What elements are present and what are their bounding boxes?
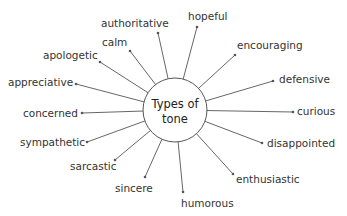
tone-label-calm: calm [102,36,127,48]
tone-label-encouraging: encouraging [237,39,303,51]
spoke-line [206,81,273,101]
spoke-end-dot [292,111,295,114]
spoke-line [205,121,262,143]
spoke-end-dot [157,32,160,35]
spoke-end-dot [129,50,132,53]
tone-label-sincere: sincere [115,182,153,194]
spoke-line [82,111,143,113]
spoke-end-dot [196,26,199,29]
spoke-end-dot [86,141,89,144]
tone-label-defensive: defensive [279,73,330,85]
tone-label-humorous: humorous [181,197,234,209]
spoke-end-dot [144,176,147,179]
spoke-line [76,84,144,102]
spoke-end-dot [182,191,185,194]
tone-spider-diagram: Types of tone authoritativehopefulcalmen… [0,0,347,216]
spoke-line [196,134,233,174]
spoke-line [199,55,235,88]
spoke-line [100,62,148,93]
tone-label-authoritative: authoritative [101,17,169,29]
spoke-line [207,111,293,112]
spoke-line [115,130,150,160]
spoke-end-dot [232,173,235,176]
tone-label-curious: curious [297,105,335,117]
spoke-line [145,139,162,177]
tone-label-appreciative: appreciative [8,76,73,88]
spoke-line [158,33,168,79]
spoke-end-dot [261,142,264,145]
spoke-line [130,51,156,85]
spoke-line [178,142,183,192]
spoke-end-dot [81,112,84,115]
tone-label-sympathetic: sympathetic [20,136,85,148]
tone-label-enthusiastic: enthusiastic [236,173,300,185]
spoke-line [87,121,145,142]
tone-label-hopeful: hopeful [188,10,227,22]
center-label-line1: Types of [150,97,199,111]
tone-label-sarcastic: sarcastic [70,160,117,172]
spoke-end-dot [99,61,102,64]
tone-label-concerned: concerned [23,107,78,119]
tone-label-apologetic: apologetic [43,49,98,61]
tone-label-disappointed: disappointed [267,137,335,149]
spoke-line [183,27,197,79]
spoke-end-dot [75,83,78,86]
spoke-end-dot [234,54,237,57]
center-label-line2: tone [162,112,188,126]
spoke-end-dot [272,80,275,83]
